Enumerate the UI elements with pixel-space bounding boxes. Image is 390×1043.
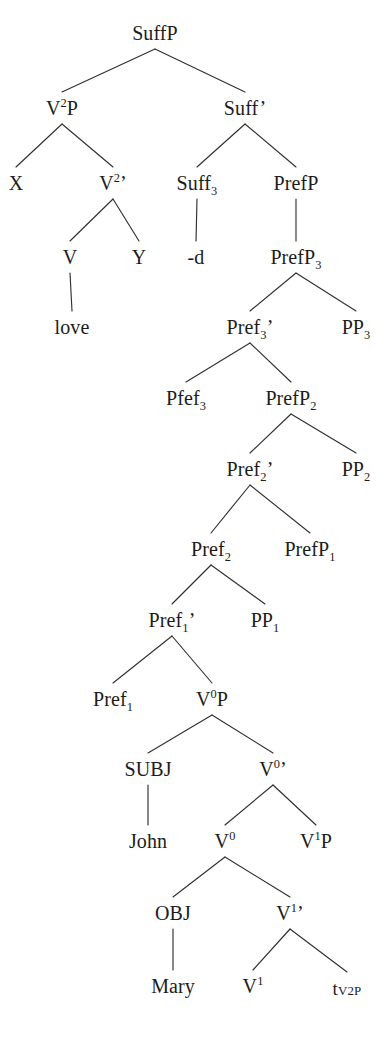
tree-node-prefp3: PrefP3 — [270, 247, 321, 267]
tree-branch-line — [211, 565, 265, 604]
tree-node-v2p: V2P — [46, 98, 78, 118]
tree-branch-line — [62, 124, 113, 167]
tree-node-y: Y — [132, 247, 147, 267]
tree-node-mary: Mary — [151, 976, 195, 996]
tree-node-v0p: V0P — [196, 689, 228, 709]
tree-branch-line — [70, 199, 113, 241]
tree-branch-line — [296, 273, 356, 311]
tree-branch-line — [197, 124, 245, 167]
tree-node-pp3: PP3 — [342, 317, 371, 337]
syntax-tree-figure: SuffPV2PSuff’XV2’Suff3PrefPVY-dPrefP3lov… — [0, 0, 390, 1043]
tree-edges-layer — [0, 0, 390, 1043]
tree-branch-line — [225, 857, 290, 897]
tree-node-prefp1: PrefP1 — [284, 539, 335, 559]
tree-node-pref3bar: Pref3’ — [227, 317, 274, 337]
tree-node-pref2: Pref2 — [191, 539, 231, 559]
tree-node-dsuffix: -d — [188, 247, 205, 267]
tree-node-pref1: Pref1 — [93, 689, 133, 709]
tree-branch-line — [155, 49, 245, 92]
tree-branch-line — [186, 343, 250, 382]
tree-node-suff3: Suff3 — [177, 173, 218, 193]
tree-node-trace: tV2P — [333, 979, 362, 998]
tree-node-suffp: SuffP — [132, 23, 178, 43]
tree-node-v1bar: V1’ — [276, 903, 304, 923]
tree-node-v0: V0 — [215, 831, 236, 851]
tree-stem-line — [70, 273, 72, 311]
tree-branch-line — [16, 124, 62, 167]
tree-branch-line — [250, 414, 291, 453]
tree-node-v1p: V1P — [300, 831, 332, 851]
tree-branch-line — [273, 785, 316, 825]
tree-node-obj: OBJ — [155, 903, 191, 923]
tree-node-love: love — [55, 317, 90, 337]
tree-branch-line — [148, 715, 212, 753]
tree-node-pref1bar: Pref1’ — [149, 610, 196, 630]
tree-node-x: X — [9, 173, 24, 193]
tree-node-john: John — [129, 831, 167, 851]
tree-node-pp1: PP1 — [251, 610, 280, 630]
tree-branch-line — [113, 636, 172, 683]
tree-branch-line — [253, 929, 290, 970]
tree-node-prefp2: PrefP2 — [265, 388, 316, 408]
tree-stem-line — [196, 199, 197, 241]
tree-node-v0bar: V0’ — [259, 759, 287, 779]
tree-branch-line — [225, 785, 273, 825]
tree-node-prefp: PrefP — [274, 173, 319, 193]
tree-node-pfef3: Pfef3 — [166, 388, 206, 408]
tree-node-v: V — [63, 247, 78, 267]
tree-branch-line — [250, 485, 310, 533]
tree-branch-line — [172, 636, 212, 683]
tree-branch-line — [250, 273, 296, 311]
tree-node-v2bar: V2’ — [99, 173, 127, 193]
tree-branch-line — [290, 929, 347, 972]
tree-branch-line — [211, 485, 250, 533]
tree-branch-line — [245, 124, 296, 167]
tree-node-pp2: PP2 — [342, 459, 371, 479]
tree-node-subj: SUBJ — [124, 759, 171, 779]
tree-branch-line — [250, 343, 291, 382]
tree-node-pref2bar: Pref2’ — [227, 459, 274, 479]
tree-branch-line — [173, 857, 225, 897]
tree-node-suffbar: Suff’ — [224, 98, 266, 118]
tree-branch-line — [62, 49, 155, 92]
tree-branch-line — [291, 414, 356, 453]
tree-branch-line — [113, 199, 139, 241]
tree-branch-line — [172, 565, 211, 604]
tree-branch-line — [212, 715, 273, 753]
tree-node-v1: V1 — [243, 976, 264, 996]
